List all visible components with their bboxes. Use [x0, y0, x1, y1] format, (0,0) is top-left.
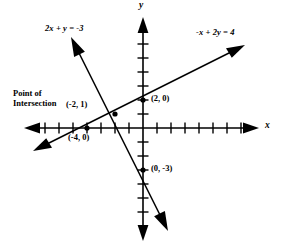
line-steep-arrow-upper-left — [71, 37, 85, 57]
point-y-intercept-line2-dot — [140, 97, 145, 102]
equation-label-line2: -x + 2y = 4 — [196, 28, 235, 37]
point-of-intersection-annotation: Point of Intersection — [13, 89, 56, 108]
point-y-intercept-line1-dot — [140, 167, 145, 172]
x-axis-label: x — [265, 121, 270, 131]
point-of-intersection-text-line1: Point of — [13, 88, 42, 98]
equation-label-line1: 2x + y = -3 — [45, 24, 84, 33]
x-axis-arrow-left — [24, 123, 40, 134]
point-y-intercept-line1-label: (0, -3) — [151, 164, 172, 173]
line-steep — [79, 53, 161, 217]
point-x-intercept-line2-label: (-4, 0) — [68, 133, 89, 142]
point-intersection-dot — [112, 111, 117, 116]
point-intersection-label: (-2, 1) — [66, 100, 87, 109]
line-shallow-arrow-upper-right — [226, 45, 245, 58]
y-axis-arrow-down — [138, 225, 149, 241]
coordinate-plane-svg — [0, 0, 283, 246]
graph-figure: 2x + y = -3 -x + 2y = 4 Point of Interse… — [0, 0, 283, 246]
line-steep-arrow-lower-right — [154, 211, 168, 231]
x-axis-arrow-right — [243, 123, 259, 134]
line-shallow-arrow-lower-left — [33, 138, 52, 151]
point-of-intersection-text-line2: Intersection — [13, 98, 56, 108]
point-x-intercept-line2-dot — [84, 125, 89, 130]
y-axis-arrow-up — [138, 17, 149, 33]
y-axis-label: y — [139, 1, 143, 11]
point-y-intercept-line2-label: (2, 0) — [151, 94, 169, 103]
